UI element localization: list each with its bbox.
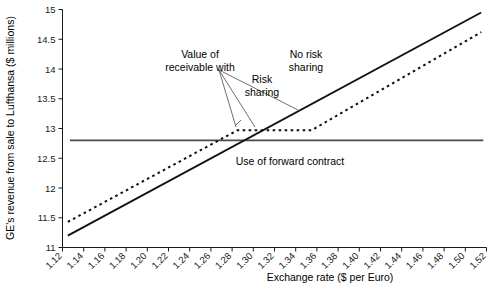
annotation-no-risk-sharing-line2: sharing <box>289 61 324 73</box>
annotation-no-risk-sharing-line1: No risk <box>290 48 323 60</box>
y-tick-label: 12 <box>45 183 56 194</box>
y-tick-label: 13.5 <box>37 93 56 104</box>
annotation-value-of-receivable-line1: Value of <box>181 48 219 60</box>
annotation-risk-sharing-line2: sharing <box>245 86 280 98</box>
y-tick-label: 14.5 <box>37 34 56 45</box>
y-tick-label: 13 <box>45 123 56 134</box>
y-tick-label: 11.5 <box>38 212 56 223</box>
y-axis-title: GE's revenue from sale to Lufthansa ($ m… <box>4 16 16 240</box>
annotation-risk-sharing-line1: Risk <box>252 73 273 85</box>
exchange-rate-revenue-chart: 1111.51212.51313.51414.515 1.121.141.161… <box>0 0 497 300</box>
annotation-value-of-receivable-line2: receivable with <box>165 61 235 73</box>
x-axis-title: Exchange rate ($ per Euro) <box>267 271 394 283</box>
annotation-use-of-forward-contract: Use of forward contract <box>236 155 345 167</box>
y-tick-label: 14 <box>45 64 56 75</box>
chart-container: 1111.51212.51313.51414.515 1.121.141.161… <box>0 0 497 300</box>
y-tick-label: 15 <box>45 4 56 15</box>
y-tick-label: 12.5 <box>37 153 56 164</box>
